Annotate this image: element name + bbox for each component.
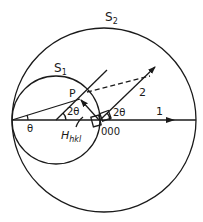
label-s2: S2 bbox=[105, 10, 118, 26]
label-2theta-origin: 2θ bbox=[113, 107, 125, 118]
label-beam-2: 2 bbox=[139, 86, 146, 99]
angle-arc-2theta-center bbox=[63, 113, 66, 120]
label-p: P bbox=[69, 87, 76, 100]
label-theta: θ bbox=[27, 123, 33, 134]
angle-arc-theta bbox=[27, 115, 28, 120]
label-2theta-center: 2θ bbox=[67, 106, 79, 117]
label-beam-1: 1 bbox=[156, 105, 163, 118]
h-hkl-leader bbox=[76, 117, 83, 127]
label-s1: S1 bbox=[54, 61, 67, 77]
label-h-hkl: Hhkl bbox=[61, 129, 82, 144]
ewald-diagram: S2 S1 P 2θ 2θ θ Hhkl 000 1 2 bbox=[0, 0, 203, 222]
label-origin-000: 000 bbox=[101, 126, 120, 137]
beam-1-arrowhead-icon bbox=[166, 117, 175, 123]
